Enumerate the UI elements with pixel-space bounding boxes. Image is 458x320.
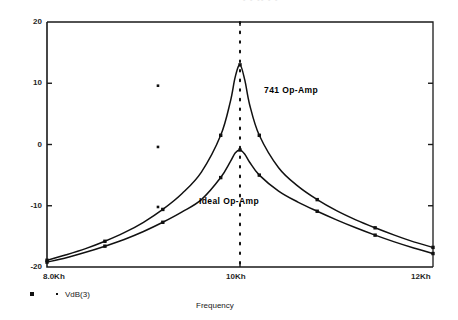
y-tick-label: -10 xyxy=(30,201,42,210)
x-tick-label: 10Kh xyxy=(226,272,246,281)
legend[interactable]: VdB(3) xyxy=(30,288,90,300)
y-tick-label: -20 xyxy=(30,262,42,271)
axes-group xyxy=(47,22,433,267)
y-tick-label: 20 xyxy=(33,17,42,26)
legend-trace-label: VdB(3) xyxy=(65,290,90,299)
x-tick-label: 12Kh xyxy=(411,272,431,281)
x-axis-title: Frequency xyxy=(196,301,234,310)
stray-points-group xyxy=(157,84,160,208)
curve-label-ideal-op-amp: Ideal Op-Amp xyxy=(199,196,259,206)
dot-marker-icon xyxy=(56,293,58,295)
square-marker-icon xyxy=(30,292,34,296)
curve-label-741-op-amp: 741 Op-Amp xyxy=(264,85,318,95)
x-tick-label: 8.0Kh xyxy=(43,272,65,281)
y-tick-label: 0 xyxy=(38,140,42,149)
y-tick-label: 10 xyxy=(33,78,42,87)
frequency-response-chart: - - -- - - 20100-10-20 8.0Kh10Kh12Kh Fre… xyxy=(0,0,458,320)
